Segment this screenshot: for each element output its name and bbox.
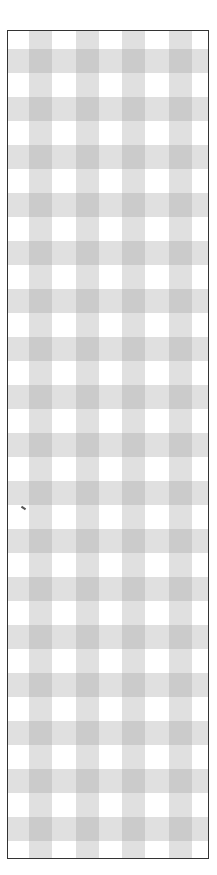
horizontal-band xyxy=(8,625,208,649)
horizontal-band xyxy=(8,193,208,217)
horizontal-band xyxy=(8,577,208,601)
horizontal-band xyxy=(8,145,208,169)
horizontal-band xyxy=(8,241,208,265)
horizontal-band xyxy=(8,721,208,745)
horizontal-band xyxy=(8,769,208,793)
horizontal-band xyxy=(8,529,208,553)
horizontal-band xyxy=(8,289,208,313)
horizontal-band xyxy=(8,481,208,505)
horizontal-band xyxy=(8,433,208,457)
horizontal-band xyxy=(8,673,208,697)
horizontal-band xyxy=(8,385,208,409)
horizontal-band xyxy=(8,49,208,73)
horizontal-band xyxy=(8,817,208,841)
horizontal-band xyxy=(8,97,208,121)
horizontal-band xyxy=(8,337,208,361)
gingham-pattern-frame xyxy=(7,30,209,859)
